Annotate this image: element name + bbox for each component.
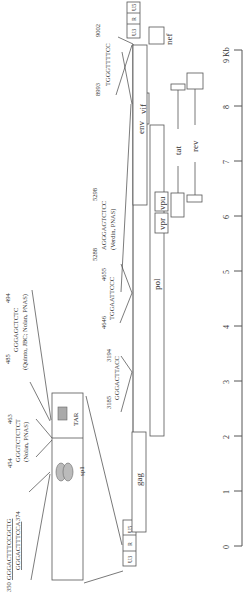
tick-label-1: 1 <box>222 490 231 494</box>
site-454-start: 454 <box>6 458 13 469</box>
kb-scale-axis <box>234 50 242 546</box>
gene-vpr-label: vpr <box>157 218 167 230</box>
tick-label-6: 6 <box>222 215 231 219</box>
gene-pol-label: pol <box>152 278 162 290</box>
site-485-end: 494 <box>4 293 11 304</box>
site-454-end: 463 <box>6 414 13 424</box>
gene-env-label: env <box>136 121 146 134</box>
site-4655-end: 4655 <box>100 268 107 281</box>
gene-rev-exon1-box <box>187 195 202 202</box>
genome-site-pointers <box>116 37 133 412</box>
gene-tat-label: tat <box>173 146 183 155</box>
site-485-seq: GGGAGCTCTC <box>12 308 19 352</box>
site-485-start: 485 <box>4 354 11 364</box>
site-454-seq: GGGTCTCTCT <box>14 419 21 462</box>
site-4646-start: 4646 <box>100 315 107 329</box>
tick-label-3: 3 <box>222 380 231 384</box>
tick-label-9kb: 9 Kb <box>222 47 231 63</box>
site-5288-start: 5288 <box>91 248 98 261</box>
kb-site-start: 350 <box>5 582 12 592</box>
ltr3-r: R <box>131 17 137 21</box>
sp1-label: sp1 <box>78 466 86 476</box>
site-9002-end: 9002 <box>94 24 101 37</box>
tar-label: TAR <box>72 412 80 426</box>
site-3185-seq: GGGACTTACC <box>113 356 120 400</box>
ltr5-r: R <box>127 542 133 546</box>
tick-label-7: 7 <box>222 160 231 164</box>
gene-rev-label: rev <box>190 140 200 152</box>
gene-tat-exon2-box <box>171 84 185 90</box>
ltr-expand-lines <box>84 396 123 583</box>
gene-vpu-label: vpu <box>157 196 167 210</box>
gene-rev-exon2-box <box>187 73 203 89</box>
gene-gag-label: gag <box>134 473 144 486</box>
gene-nef-box <box>149 27 164 44</box>
tar-icon <box>58 407 67 420</box>
kb-site-seq2: GGGACTTTCCA <box>14 521 21 570</box>
gene-vif-label: vif <box>138 104 148 114</box>
gene-tat-exon1-box <box>171 193 184 217</box>
site-5288-seq: AGGGAGTCTCC <box>100 201 107 250</box>
site-485-ref: (Quinto, JBC; Nolan, PNAS) <box>21 294 29 370</box>
site-8993-seq: TGGGTTTTCC <box>104 43 111 86</box>
kb-site-seq1: GGGACTTTCCGCTG <box>5 518 12 580</box>
site-5298-end: 5298 <box>91 188 98 201</box>
tick-label-5: 5 <box>222 270 231 274</box>
gene-nef-label: nef <box>164 34 174 46</box>
tick-label-8: 8 <box>222 105 231 109</box>
site-3194-end: 3194 <box>105 348 112 362</box>
site-454-ref: (Nolan, PNAS) <box>22 422 30 462</box>
ltr-site-pointers <box>29 290 52 580</box>
tick-label-0: 0 <box>222 545 231 549</box>
sp1-sites-icon <box>56 463 73 481</box>
site-4646-seq: TGGAATTCCC <box>108 277 115 320</box>
ltr5-u3: U3 <box>127 556 133 563</box>
site-8993-start: 8993 <box>94 83 101 96</box>
tick-label-4: 4 <box>222 325 231 329</box>
site-5288-ref: (Verdin, PNAS) <box>109 208 117 250</box>
genome-diagram: 0 1 2 3 4 5 6 7 8 9 Kb U3 R U5 U3 R U5 <box>0 0 250 597</box>
ltr3-u5: U5 <box>131 4 137 11</box>
site-3185-start: 3185 <box>105 396 112 409</box>
ltr3-u3: U3 <box>131 29 137 36</box>
kb-site-end: 374 <box>14 511 21 522</box>
kb-scale-labels: 0 1 2 3 4 5 6 7 8 9 Kb <box>222 47 231 549</box>
tick-label-2: 2 <box>222 435 231 439</box>
